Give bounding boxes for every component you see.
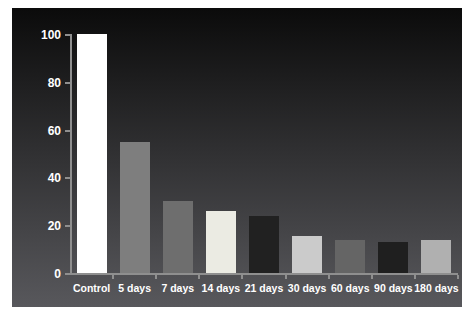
bar-control — [77, 34, 107, 273]
x-axis-tick — [112, 275, 114, 279]
y-tick-label: 20 — [31, 220, 61, 232]
y-axis-tick — [65, 130, 70, 132]
y-tick-label: 40 — [31, 172, 61, 184]
x-axis-tick — [241, 275, 243, 279]
x-axis-line — [70, 273, 458, 275]
x-tick-label: 30 days — [288, 282, 327, 294]
y-axis-tick — [65, 177, 70, 179]
y-axis-tick — [65, 225, 70, 227]
x-tick-label: 180 days — [414, 282, 458, 294]
bar-5-days — [120, 142, 150, 273]
x-axis-tick — [371, 275, 373, 279]
x-axis-tick — [155, 275, 157, 279]
bar-30-days — [292, 236, 322, 273]
figure: 020406080100 Control5 days7 days14 days2… — [0, 0, 472, 320]
x-axis-tick — [457, 275, 459, 279]
y-axis-tick — [65, 82, 70, 84]
x-axis-tick — [198, 275, 200, 279]
x-tick-label: Control — [73, 282, 110, 294]
bar-7-days — [163, 201, 193, 273]
y-axis-tick — [65, 273, 70, 275]
y-tick-label: 80 — [31, 77, 61, 89]
y-tick-label: 0 — [31, 268, 61, 280]
x-axis-tick — [414, 275, 416, 279]
y-tick-label: 60 — [31, 125, 61, 137]
bar-21-days — [249, 216, 279, 273]
x-tick-label: 5 days — [118, 282, 151, 294]
x-tick-label: 21 days — [245, 282, 284, 294]
x-axis-tick — [328, 275, 330, 279]
bar-14-days — [206, 211, 236, 273]
x-tick-label: 14 days — [202, 282, 241, 294]
y-tick-label: 100 — [31, 29, 61, 41]
y-axis-line — [70, 34, 72, 275]
bar-90-days — [378, 242, 408, 273]
x-axis-tick — [285, 275, 287, 279]
chart-plot-area: 020406080100 Control5 days7 days14 days2… — [12, 8, 462, 307]
x-tick-label: 60 days — [331, 282, 370, 294]
bar-180-days — [421, 240, 451, 273]
x-tick-label: 90 days — [374, 282, 413, 294]
x-tick-label: 7 days — [161, 282, 194, 294]
y-axis-tick — [65, 34, 70, 36]
bar-60-days — [335, 240, 365, 273]
